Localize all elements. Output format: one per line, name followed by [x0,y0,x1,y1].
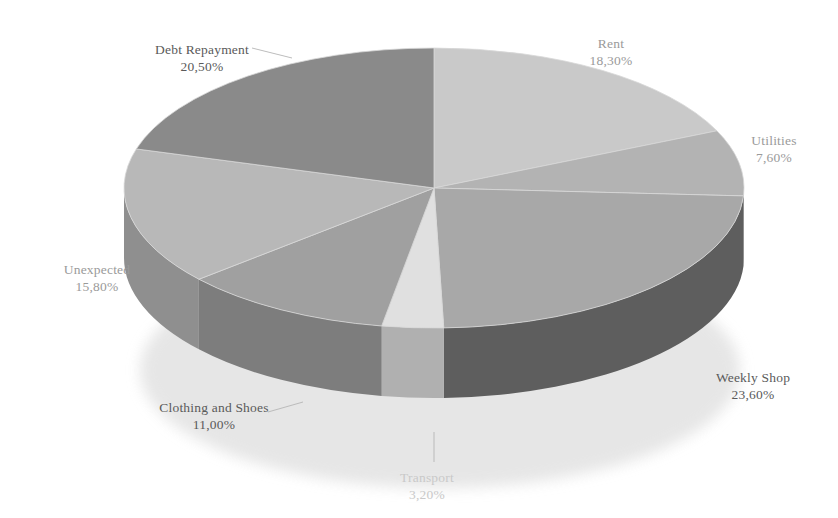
pie-chart-canvas [0,0,838,518]
slice-label-debt-repayment-value: 20,50% [122,59,282,76]
slice-label-debt-repayment: Debt Repayment 20,50% [122,42,282,76]
pie-chart: Rent 18,30% Utilities 7,60% Weekly Shop … [0,0,838,518]
slice-label-weekly-shop: Weekly Shop 23,60% [688,370,818,404]
slice-label-utilities-value: 7,60% [722,150,826,167]
slice-label-weekly-shop-name: Weekly Shop [688,370,818,387]
slice-label-unexpected: Unexpected 15,80% [36,262,158,296]
slice-label-weekly-shop-value: 23,60% [688,387,818,404]
slice-label-utilities: Utilities 7,60% [722,133,826,167]
slice-label-rent-name: Rent [556,36,666,53]
slice-label-transport-name: Transport [375,470,479,487]
slice-label-clothing-and-shoes: Clothing and Shoes 11,00% [126,400,302,434]
slice-label-rent: Rent 18,30% [556,36,666,70]
slice-label-clothing-and-shoes-value: 11,00% [126,417,302,434]
slice-label-transport-value: 3,20% [375,487,479,504]
slice-label-transport: Transport 3,20% [375,470,479,504]
slice-label-debt-repayment-name: Debt Repayment [122,42,282,59]
slice-label-unexpected-name: Unexpected [36,262,158,279]
slice-label-rent-value: 18,30% [556,53,666,70]
slice-label-clothing-and-shoes-name: Clothing and Shoes [126,400,302,417]
pie-side-transport [382,326,444,398]
slice-label-unexpected-value: 15,80% [36,279,158,296]
slice-label-utilities-name: Utilities [722,133,826,150]
pie-top-surface [124,48,744,328]
